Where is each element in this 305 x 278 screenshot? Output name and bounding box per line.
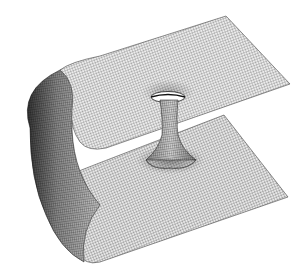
wormhole-mesh-svg: [0, 0, 305, 278]
wormhole-figure: Wireframe mesh rendering of a folded she…: [0, 0, 305, 278]
